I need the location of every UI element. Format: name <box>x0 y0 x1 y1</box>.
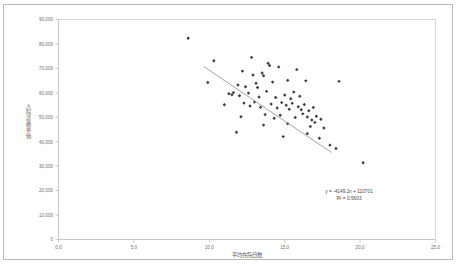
data-point-marker <box>262 74 265 77</box>
data-point-marker <box>254 82 257 85</box>
data-point-marker <box>300 108 303 111</box>
data-point-marker <box>227 92 230 95</box>
x-tick-label: 25.0 <box>431 245 440 250</box>
data-point-marker <box>263 113 266 116</box>
data-point-marker <box>244 85 247 88</box>
trendline <box>203 66 331 152</box>
data-point-marker <box>306 115 309 118</box>
data-point-marker <box>294 116 297 119</box>
data-point-marker <box>212 59 215 62</box>
data-point-marker <box>256 86 259 89</box>
data-point-marker <box>318 137 321 140</box>
data-point-marker <box>337 80 340 83</box>
data-point-marker <box>295 68 298 71</box>
y-axis-title-char: 価 <box>26 132 31 140</box>
data-point-marker <box>298 95 301 98</box>
data-point-marker <box>285 104 288 107</box>
plot-area-border <box>59 20 436 240</box>
data-point-marker <box>286 79 289 82</box>
y-axis-title-char: 療 <box>26 120 32 127</box>
x-tick-label: 5.0 <box>131 245 138 250</box>
x-tick-label: 20.0 <box>356 245 365 250</box>
y-axis-title: 入院診療単価 <box>26 103 32 140</box>
chart-frame: 010,00020,00030,00040,00050,00060,00070,… <box>3 4 453 260</box>
x-axis-title: 平均在院日数 <box>232 251 263 259</box>
data-point-marker <box>304 79 307 82</box>
data-point-marker <box>301 112 304 115</box>
data-point-marker <box>262 123 265 126</box>
data-point-marker <box>328 143 331 146</box>
data-point-marker <box>288 108 291 111</box>
data-point-marker <box>239 115 242 118</box>
y-tick-label: 90,000 <box>39 17 53 22</box>
data-point-marker <box>315 115 318 118</box>
data-point-marker <box>307 109 310 112</box>
data-point-marker <box>278 114 281 117</box>
scatter-chart: 010,00020,00030,00040,00050,00060,00070,… <box>4 5 452 259</box>
data-points <box>186 37 364 165</box>
data-point-marker <box>272 117 275 120</box>
data-point-marker <box>236 83 239 86</box>
data-point-marker <box>223 103 226 106</box>
data-point-marker <box>260 71 263 74</box>
data-point-marker <box>248 104 251 107</box>
x-tick-label: 10.0 <box>205 245 214 250</box>
y-tick-label: 40,000 <box>39 140 53 145</box>
data-point-marker <box>242 101 245 104</box>
data-point-marker <box>289 97 292 100</box>
data-point-marker <box>206 81 209 84</box>
y-tick-label: 60,000 <box>39 91 53 96</box>
y-tick-label: 20,000 <box>39 188 53 193</box>
data-point-marker <box>306 132 309 135</box>
x-tick-label: 0.0 <box>55 245 62 250</box>
data-point-marker <box>186 37 189 40</box>
data-point-marker <box>313 121 316 124</box>
data-point-marker <box>251 73 254 76</box>
data-point-marker <box>309 125 312 128</box>
data-point-marker <box>312 106 315 109</box>
y-tick-label: 50,000 <box>39 115 53 120</box>
data-point-marker <box>250 56 253 59</box>
data-point-marker <box>269 102 272 105</box>
data-point-marker <box>265 90 268 93</box>
y-tick-label: 30,000 <box>39 164 53 169</box>
trendline-r-squared: R² = 0.5603 <box>336 196 362 201</box>
data-point-marker <box>292 90 295 93</box>
data-point-marker <box>334 147 337 150</box>
data-point-marker <box>310 118 313 121</box>
x-axis-ticks: 0.05.010.015.020.025.0 <box>55 240 440 250</box>
trendline-equation: y = -4149.2x + 110701 <box>325 189 373 194</box>
data-point-marker <box>235 130 238 133</box>
data-point-marker <box>277 65 280 68</box>
data-point-marker <box>281 135 284 138</box>
y-tick-label: 10,000 <box>39 213 53 218</box>
data-point-marker <box>275 106 278 109</box>
y-axis-ticks: 010,00020,00030,00040,00050,00060,00070,… <box>39 17 59 242</box>
data-point-marker <box>274 96 277 99</box>
data-point-marker <box>322 126 325 129</box>
y-tick-label: 0 <box>50 237 53 242</box>
data-point-marker <box>303 103 306 106</box>
y-tick-label: 80,000 <box>39 42 53 47</box>
data-point-marker <box>238 94 241 97</box>
data-point-marker <box>280 101 283 104</box>
data-point-marker <box>257 95 260 98</box>
data-point-marker <box>271 80 274 83</box>
data-point-marker <box>247 91 250 94</box>
x-tick-label: 15.0 <box>280 245 289 250</box>
data-point-marker <box>241 69 244 72</box>
y-tick-label: 70,000 <box>39 66 53 71</box>
data-point-marker <box>297 105 300 108</box>
data-point-marker <box>283 93 286 96</box>
data-point-marker <box>361 161 364 164</box>
data-point-marker <box>319 118 322 121</box>
data-point-marker <box>291 102 294 105</box>
